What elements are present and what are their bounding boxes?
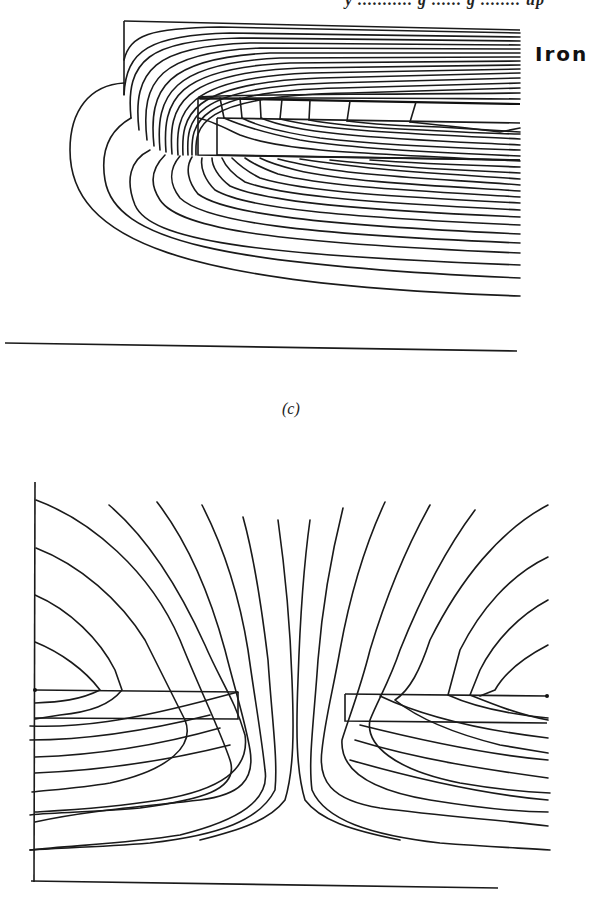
figure-c-flux-plot xyxy=(5,21,520,351)
figure-d-flux-plot xyxy=(30,482,550,888)
left-flux-lines xyxy=(30,500,293,850)
right-flux-lines xyxy=(297,502,550,850)
flux-plot-figures xyxy=(0,0,595,909)
conductor-flux-lines xyxy=(198,118,520,161)
figure-c-baseline xyxy=(5,343,517,351)
